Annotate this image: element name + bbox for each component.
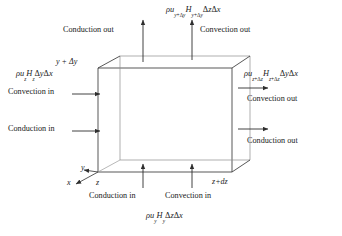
left-convection-formula: ρuzHzΔyΔx: [16, 69, 53, 78]
cube-hidden-edge: [98, 160, 120, 172]
corner-label-y-plus-dy: y + Δy: [56, 57, 77, 66]
bottom-conduction-in-label: Conduction in: [89, 192, 136, 201]
right-conduction-out-label: Conduction out: [247, 137, 298, 146]
cube-back-face: [120, 56, 250, 160]
axis-lines: [76, 170, 98, 184]
diagram-root: ρuy+ΔyHy+ΔyΔzΔx Conduction out Convectio…: [0, 0, 342, 236]
x-axis-label: x: [67, 178, 71, 187]
right-convection-formula: ρuz+ΔzHz+ΔzΔyΔx: [244, 69, 298, 78]
z-origin-label: z: [96, 178, 99, 187]
left-conduction-in-label: Conduction in: [8, 125, 55, 134]
z-far-label: z+dz: [212, 177, 228, 186]
y-axis-label: y: [81, 163, 85, 172]
top-convection-out-label: Convection out: [200, 26, 250, 35]
cube-depth-edges: [98, 56, 250, 172]
cube-front-face: [98, 68, 232, 172]
left-convection-in-label: Convection in: [8, 88, 54, 97]
bottom-convection-in-label: Convection in: [165, 192, 211, 201]
right-convection-out-label: Convection out: [247, 95, 297, 104]
top-conduction-out-label: Conduction out: [63, 26, 114, 35]
top-convection-formula: ρuy+ΔyHy+ΔyΔzΔx: [166, 5, 221, 14]
bottom-arrows: [143, 164, 192, 188]
bottom-convection-formula: ρuyHyΔzΔx: [146, 211, 183, 220]
left-arrows: [72, 94, 100, 131]
